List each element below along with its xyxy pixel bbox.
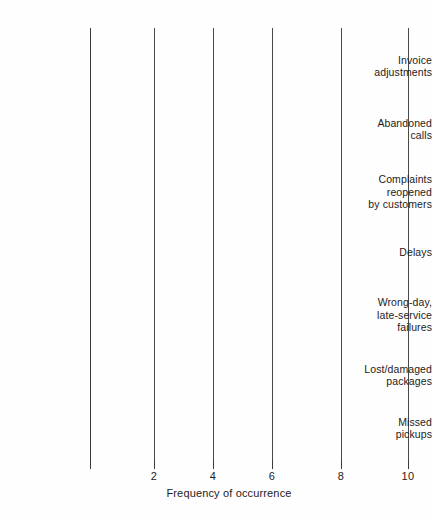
category-label-line: Missed [346, 416, 432, 429]
x-tick-4 [213, 460, 214, 469]
bar-track [90, 304, 271, 326]
category-label-line: late-service [346, 309, 432, 322]
category-label-line: calls [346, 129, 432, 142]
x-axis-title-text: Frequency of occurrence [166, 487, 291, 499]
x-axis-title: Frequency of occurrence [0, 487, 432, 499]
category-label-line: Delays [346, 246, 432, 259]
category-label-2: Complaintsreopenedby customers [346, 173, 432, 211]
x-tick-2 [154, 460, 155, 469]
bar-track [90, 181, 271, 203]
category-label-1: Abandonedcalls [346, 117, 432, 142]
plot-area [90, 28, 408, 460]
category-label-line: Lost/damaged [346, 363, 432, 376]
category-label-5: Lost/damagedpackages [346, 363, 432, 388]
x-tick-6 [272, 460, 273, 469]
bar-track [90, 241, 271, 263]
category-label-line: reopened [346, 186, 432, 199]
x-tick-0 [90, 460, 91, 469]
x-tick-label-6: 6 [260, 470, 284, 482]
bar-track [90, 55, 122, 77]
category-label-4: Wrong-day,late-servicefailures [346, 296, 432, 334]
pareto-bar-chart: InvoiceadjustmentsAbandonedcallsComplain… [0, 0, 432, 521]
x-tick-label-8: 8 [329, 470, 353, 482]
category-label-line: Abandoned [346, 117, 432, 130]
category-label-0: Invoiceadjustments [346, 54, 432, 79]
bar-track [90, 118, 122, 140]
gridline-10 [408, 28, 409, 460]
category-label-line: failures [346, 321, 432, 334]
category-label-3: Delays [346, 246, 432, 259]
category-label-line: adjustments [346, 66, 432, 79]
x-tick-label-2: 2 [142, 470, 166, 482]
x-tick-label-10: 10 [396, 470, 420, 482]
category-label-line: Complaints [346, 173, 432, 186]
category-label-line: Invoice [346, 54, 432, 67]
gridline-6 [272, 28, 273, 460]
category-label-line: pickups [346, 428, 432, 441]
x-tick-8 [341, 460, 342, 469]
x-tick-10 [408, 460, 409, 469]
category-label-6: Missedpickups [346, 416, 432, 441]
gridline-8 [341, 28, 342, 460]
category-label-line: packages [346, 375, 432, 388]
category-label-line: by customers [346, 198, 432, 211]
category-label-line: Wrong-day, [346, 296, 432, 309]
x-tick-label-4: 4 [201, 470, 225, 482]
